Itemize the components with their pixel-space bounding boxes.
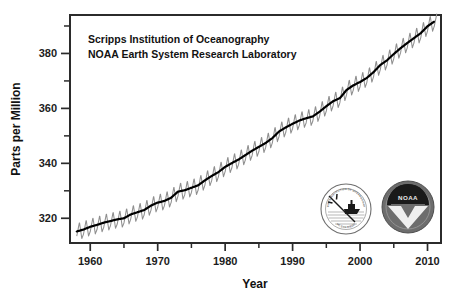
annotation-line-noaa: NOAA Earth System Research Laboratory	[88, 48, 297, 60]
x-tick-label: 2010	[415, 255, 439, 267]
noaa-center-text: NOAA	[398, 194, 418, 201]
x-axis-tick-labels: 196019701980199020002010	[78, 255, 440, 267]
x-tick-label: 1970	[145, 255, 169, 267]
x-tick-label: 2000	[348, 255, 372, 267]
y-tick-label: 380	[39, 47, 57, 59]
x-axis-title: Year	[242, 277, 268, 291]
x-tick-label: 1960	[78, 255, 102, 267]
x-tick-label: 1980	[213, 255, 237, 267]
noaa-logo-icon: NOAA	[382, 181, 434, 233]
annotation-line-scripps: Scripps Institution of Oceanography	[88, 33, 270, 45]
annotation-block: Scripps Institution of Oceanography NOAA…	[88, 33, 297, 60]
y-tick-label: 360	[39, 102, 57, 114]
x-tick-label: 1990	[280, 255, 304, 267]
scripps-logo-icon: SCRIPPS INSTITUTION OF OCEANOGRAPHY UC S…	[321, 184, 371, 234]
y-axis-tick-labels: 320340360380	[39, 47, 57, 224]
x-axis-ticks	[90, 243, 427, 251]
keeling-curve-figure: 196019701980199020002010 320340360380 Ye…	[0, 0, 457, 296]
y-axis-title: Parts per Million	[9, 82, 23, 175]
y-tick-label: 340	[39, 157, 57, 169]
y-tick-label: 320	[39, 212, 57, 224]
y-axis-ticks	[61, 26, 70, 218]
chart-svg: 196019701980199020002010 320340360380 Ye…	[0, 0, 457, 296]
